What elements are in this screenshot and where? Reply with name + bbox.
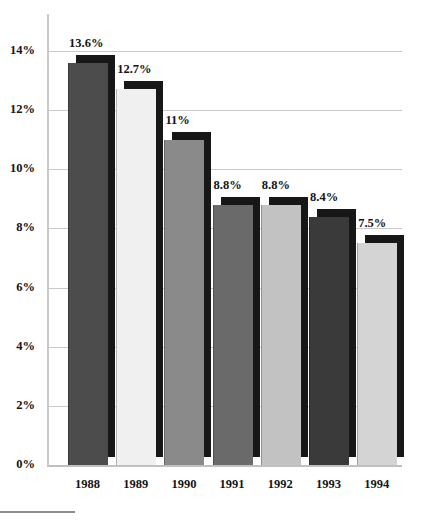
y-tick-label-10: 10% <box>0 162 35 175</box>
bar-front-face <box>309 217 349 465</box>
bar-value-label-1990: 11% <box>165 114 189 127</box>
bar-value-label-1993: 8.4% <box>310 191 338 204</box>
footer-divider <box>0 511 75 513</box>
bar-top-face <box>221 197 260 205</box>
bar-side-face <box>155 81 163 457</box>
bar-top-face <box>76 55 115 63</box>
y-tick-label-14: 14% <box>0 44 35 57</box>
x-tick-label-1991: 1991 <box>209 478 256 491</box>
bar-value-label-1991: 8.8% <box>214 179 242 192</box>
bar-front-face <box>357 243 397 465</box>
plot-area <box>47 14 402 466</box>
bar-value-label-1989: 12.7% <box>117 63 151 76</box>
bar-chart: 0%2%4%6%8%10%12%14% 13.6%12.7%11%8.8%8.8… <box>0 0 434 523</box>
x-tick-label-1990: 1990 <box>160 478 207 491</box>
y-tick-label-12: 12% <box>0 103 35 116</box>
bar-1988[interactable] <box>68 63 107 465</box>
bar-front-face <box>261 205 301 465</box>
bar-side-face <box>252 197 260 457</box>
bar-front-face <box>116 89 156 465</box>
bar-side-face <box>396 235 404 457</box>
bar-1989[interactable] <box>116 89 155 465</box>
x-tick-label-1988: 1988 <box>64 478 111 491</box>
x-tick-label-1993: 1993 <box>305 478 352 491</box>
bar-1993[interactable] <box>309 217 348 465</box>
x-tick-label-1989: 1989 <box>112 478 159 491</box>
bar-side-face <box>300 197 308 457</box>
y-tick-label-8: 8% <box>0 221 35 234</box>
bar-value-label-1994: 7.5% <box>358 217 386 230</box>
bar-front-face <box>213 205 253 465</box>
bar-1994[interactable] <box>357 243 396 465</box>
y-tick-label-0: 0% <box>0 458 35 471</box>
y-tick-label-2: 2% <box>0 399 35 412</box>
y-tick-label-4: 4% <box>0 340 35 353</box>
bar-1991[interactable] <box>213 205 252 465</box>
bar-front-face <box>68 63 108 465</box>
bar-front-face <box>164 140 204 465</box>
bar-1992[interactable] <box>261 205 300 465</box>
bar-top-face <box>365 235 404 243</box>
x-tick-label-1992: 1992 <box>257 478 304 491</box>
bar-value-label-1992: 8.8% <box>262 179 290 192</box>
bar-top-face <box>317 209 356 217</box>
bar-top-face <box>269 197 308 205</box>
bar-top-face <box>124 81 163 89</box>
bar-side-face <box>348 209 356 457</box>
bar-side-face <box>203 132 211 457</box>
bar-value-label-1988: 13.6% <box>69 37 103 50</box>
bar-side-face <box>107 55 115 457</box>
bar-top-face <box>172 132 211 140</box>
y-tick-label-6: 6% <box>0 281 35 294</box>
bar-1990[interactable] <box>164 140 203 465</box>
x-tick-label-1994: 1994 <box>353 478 400 491</box>
